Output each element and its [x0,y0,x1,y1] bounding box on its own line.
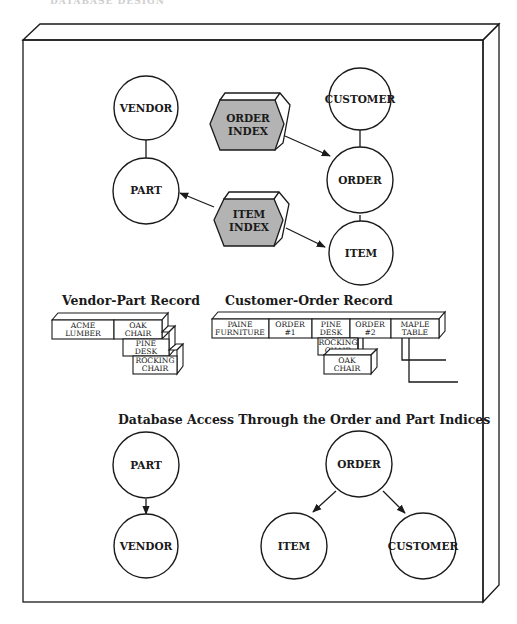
bottom-node-customer-label: CUSTOMER [388,540,459,552]
item-index-line1: ITEM [233,208,266,220]
page-header: DATABASE DESIGN [50,0,165,6]
node-part-label: PART [130,184,162,196]
database-diagram-figure: DATABASE DESIGN VENDOR PART CUSTOMER ORD… [0,0,517,624]
bottom-node-vendor-label: VENDOR [119,540,173,552]
bottom-node-item: ITEM [261,513,327,579]
top-diagram: VENDOR PART CUSTOMER ORDER ITEM ORDER IN… [113,68,395,285]
item-index-arrow-to-part [180,193,214,207]
item-index-arrow-to-item [286,228,325,247]
cell-text: CHAIR [142,364,169,373]
bottom-node-customer: CUSTOMER [388,513,459,579]
item-index-line2: INDEX [229,221,270,233]
order-index-arrow [285,136,330,156]
order-index-block: ORDER INDEX [210,93,290,150]
node-vendor-label: VENDOR [119,102,173,114]
bottom-node-part: PART [113,432,179,498]
cell-text: FURNITURE [215,328,265,337]
order-to-customer-arrow [383,491,405,513]
cell-text: LUMBER [65,329,101,338]
bottom-diagram: Database Access Through the Order and Pa… [113,412,490,579]
cell-text: DESK [320,328,343,337]
order-index-line1: ORDER [226,112,270,124]
vendor-part-record: Vendor-Part Record ACME LUMBER OAK CHAIR… [52,293,200,374]
cell-text: TABLE [402,328,428,337]
bottom-node-part-label: PART [130,459,162,471]
cell-text: CHAIR [125,329,152,338]
node-customer-label: CUSTOMER [325,93,396,105]
node-part: PART [113,158,179,224]
customer-order-record-title: Customer-Order Record [225,293,393,308]
node-customer: CUSTOMER [325,68,396,130]
cell-text: DESK [135,347,158,356]
node-vendor: VENDOR [114,76,178,140]
item-index-block: ITEM INDEX [214,192,289,246]
cell-text: CHAIR [334,364,361,373]
bottom-node-item-label: ITEM [278,540,311,552]
bottom-node-vendor: VENDOR [114,514,178,578]
bottom-diagram-title: Database Access Through the Order and Pa… [118,412,490,427]
cell-text: #1 [284,328,295,337]
bottom-node-order-label: ORDER [337,458,381,470]
customer-order-record: Customer-Order Record PAINE FURNITURE OR… [212,293,458,382]
node-order-label: ORDER [338,174,382,186]
node-order: ORDER [327,147,393,213]
node-item: ITEM [329,221,393,285]
vendor-part-record-title: Vendor-Part Record [61,293,200,308]
order-index-line2: INDEX [228,125,269,137]
bottom-node-order: ORDER [326,431,392,497]
order-to-item-arrow [313,491,336,512]
cell-text: #2 [364,328,375,337]
node-item-label: ITEM [345,247,378,259]
